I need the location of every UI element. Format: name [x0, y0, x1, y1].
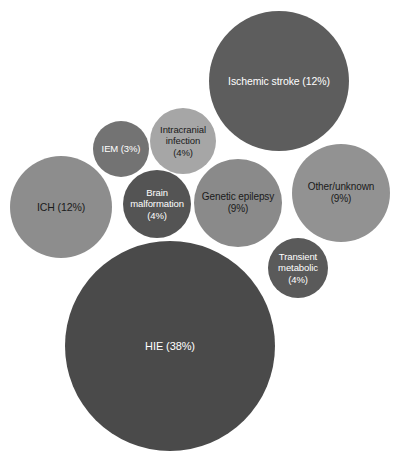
bubble-hie: HIE (38%) [65, 241, 275, 451]
bubble-label-hie: HIE (38%) [143, 340, 197, 353]
bubble-brain-malformation: Brain malformation (4%) [123, 170, 191, 238]
bubble-label-brain-malformation: Brain malformation (4%) [128, 187, 186, 221]
bubble-label-other-unknown: Other/unknown (9%) [306, 181, 377, 205]
bubble-label-intracranial-infection: Intracranial infection (4%) [158, 124, 208, 158]
bubble-label-transient-metabolic: Transient metabolic (4%) [276, 251, 320, 285]
bubble-label-iem: IEM (3%) [100, 143, 143, 154]
bubble-genetic-epilepsy: Genetic epilepsy (9%) [194, 159, 282, 247]
bubble-transient-metabolic: Transient metabolic (4%) [268, 238, 328, 298]
bubble-ich: ICH (12%) [10, 156, 112, 258]
bubble-ischemic-stroke: Ischemic stroke (12%) [209, 11, 349, 151]
bubble-label-ischemic-stroke: Ischemic stroke (12%) [226, 75, 332, 87]
bubble-label-genetic-epilepsy: Genetic epilepsy (9%) [200, 191, 276, 215]
bubble-iem: IEM (3%) [93, 121, 149, 177]
bubble-intracranial-infection: Intracranial infection (4%) [150, 108, 216, 174]
bubble-chart: HIE (38%)Ischemic stroke (12%)ICH (12%)O… [0, 0, 397, 457]
bubble-label-ich: ICH (12%) [35, 201, 87, 213]
bubble-other-unknown: Other/unknown (9%) [292, 144, 390, 242]
